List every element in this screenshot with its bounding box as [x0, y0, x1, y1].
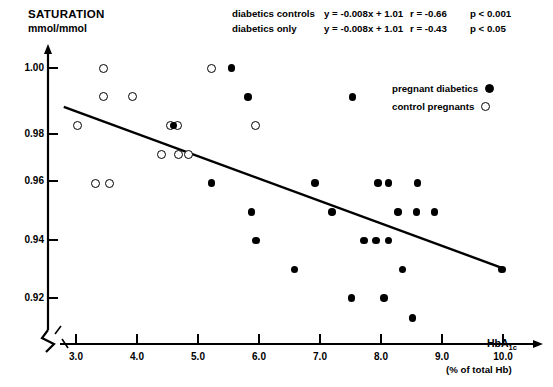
y-tick-label: 0.96 [4, 175, 44, 186]
data-point-pregnant-diabetics [414, 179, 422, 187]
data-point-pregnant-diabetics [399, 266, 407, 274]
x-axis-label-subscript: 1c [509, 343, 517, 352]
x-axis-label: HbA1c [487, 337, 517, 352]
y-tick-label: 0.94 [4, 234, 44, 245]
x-tick-label: 4.0 [117, 351, 157, 362]
regression-line [64, 107, 502, 268]
y-tick-label: 0.98 [4, 128, 44, 139]
data-point-pregnant-diabetics [208, 179, 216, 187]
x-tick-label: 9.0 [422, 351, 462, 362]
data-point-pregnant-diabetics [394, 208, 402, 216]
y-tick-label: 1.00 [4, 62, 44, 73]
data-point-pregnant-diabetics [228, 64, 236, 72]
data-point-pregnant-diabetics [311, 179, 319, 187]
data-point-pregnant-diabetics [291, 266, 299, 274]
data-point-control-pregnants [128, 92, 137, 101]
y-axis-arrow-icon [44, 44, 52, 54]
data-point-pregnant-diabetics [248, 208, 256, 216]
scatter-plot-figure: SATURATION mmol/mmol diabetics controls … [0, 0, 553, 387]
data-point-pregnant-diabetics [252, 237, 260, 245]
data-point-control-pregnants [105, 179, 114, 188]
x-tick-label: 7.0 [300, 351, 340, 362]
data-point-control-pregnants [73, 121, 82, 130]
data-point-control-pregnants [91, 179, 100, 188]
data-point-control-pregnants [174, 150, 183, 159]
data-point-pregnant-diabetics [360, 237, 368, 245]
axis-break-icon [42, 330, 54, 352]
y-tick-label: 0.92 [4, 292, 44, 303]
data-point-pregnant-diabetics [498, 266, 506, 274]
data-point-pregnant-diabetics [380, 294, 388, 302]
x-tick-label: 3.0 [56, 351, 96, 362]
x-axis-sublabel: (% of total Hb) [446, 364, 512, 375]
data-point-pregnant-diabetics [349, 93, 357, 101]
data-point-pregnant-diabetics [328, 208, 336, 216]
data-point-pregnant-diabetics [374, 179, 382, 187]
x-tick-label: 10.0 [483, 351, 523, 362]
data-point-control-pregnants [99, 64, 108, 73]
data-point-pregnant-diabetics [372, 237, 380, 245]
x-tick-label: 8.0 [361, 351, 401, 362]
x-tick-label: 6.0 [239, 351, 279, 362]
data-point-pregnant-diabetics [431, 208, 439, 216]
data-point-pregnant-diabetics [244, 93, 252, 101]
axes-and-regression [0, 0, 553, 387]
x-axis-arrow-icon [533, 340, 543, 348]
x-axis-label-text: HbA [487, 337, 509, 349]
data-point-control-pregnants [157, 150, 166, 159]
data-point-pregnant-diabetics [385, 179, 393, 187]
axis-break-tick [55, 326, 61, 334]
data-point-control-pregnants [207, 64, 216, 73]
x-tick-label: 5.0 [178, 351, 218, 362]
data-point-pregnant-diabetics [413, 208, 421, 216]
